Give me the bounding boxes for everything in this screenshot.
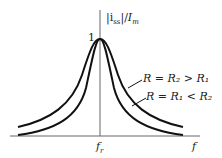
pointer-wide [128, 80, 142, 88]
label-part: |/ [120, 11, 127, 24]
label-sub: r [100, 147, 103, 155]
resonance-frequency-label: fr [96, 141, 103, 155]
y-axis-label: |iss|/Im [106, 12, 139, 26]
curve-narrow-label: R = R₁ < R₂ [146, 91, 212, 102]
curve-wide-label: R = R₂ > R₁ [143, 73, 209, 84]
peak-tick-label: 1 [88, 32, 95, 43]
resonance-diagram: |iss|/Im 1 R = R₂ > R₁ R = R₁ < R₂ fr f [0, 0, 222, 158]
x-axis-label: f [192, 141, 196, 152]
label-sub: m [132, 18, 139, 26]
